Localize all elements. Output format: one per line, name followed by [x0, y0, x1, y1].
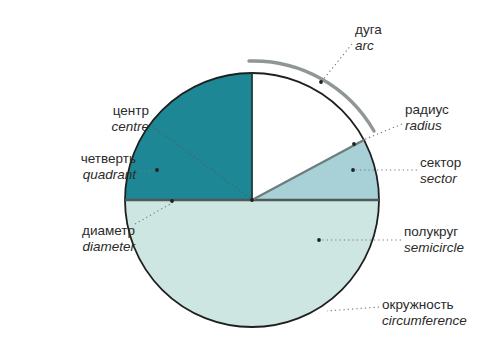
label-quadrant: четверть quadrant — [81, 151, 136, 183]
semicircle-region — [125, 200, 379, 327]
label-diameter-ru: диаметр — [82, 223, 135, 239]
marker-semicircle — [317, 238, 321, 242]
quadrant-region — [125, 73, 252, 200]
marker-centre — [250, 198, 254, 202]
label-centre-ru: центр — [111, 103, 149, 119]
label-semicircle-en: semicircle — [404, 240, 464, 256]
label-radius-ru: радиус — [405, 102, 449, 118]
leader-line-arc — [322, 44, 352, 81]
marker-quadrant — [155, 168, 159, 172]
label-diameter-en: diameter — [82, 239, 135, 255]
label-radius: радиус radius — [405, 102, 449, 134]
label-circumference: окружность circumference — [382, 297, 467, 329]
label-diameter: диаметр diameter — [82, 223, 135, 255]
label-sector-en: sector — [420, 171, 461, 187]
label-centre-en: centre — [111, 119, 149, 135]
label-arc: дуга arc — [355, 22, 382, 54]
label-circumference-ru: окружность — [382, 297, 467, 313]
label-quadrant-en: quadrant — [81, 167, 136, 183]
label-radius-en: radius — [405, 118, 449, 134]
leader-line-circumference — [327, 307, 379, 311]
label-circumference-en: circumference — [382, 313, 467, 329]
marker-radius — [352, 142, 356, 146]
label-quadrant-ru: четверть — [81, 151, 136, 167]
label-sector: сектор sector — [420, 155, 461, 187]
marker-arc — [319, 80, 323, 84]
label-centre: центр centre — [111, 103, 149, 135]
marker-diameter — [170, 199, 174, 203]
label-semicircle-ru: полукруг — [404, 224, 464, 240]
label-sector-ru: сектор — [420, 155, 461, 171]
circle-geometry-diagram: дуга arc радиус radius сектор sector пол… — [0, 0, 501, 349]
marker-sector — [351, 168, 355, 172]
label-arc-en: arc — [355, 38, 382, 54]
label-semicircle: полукруг semicircle — [404, 224, 464, 256]
label-arc-ru: дуга — [355, 22, 382, 38]
